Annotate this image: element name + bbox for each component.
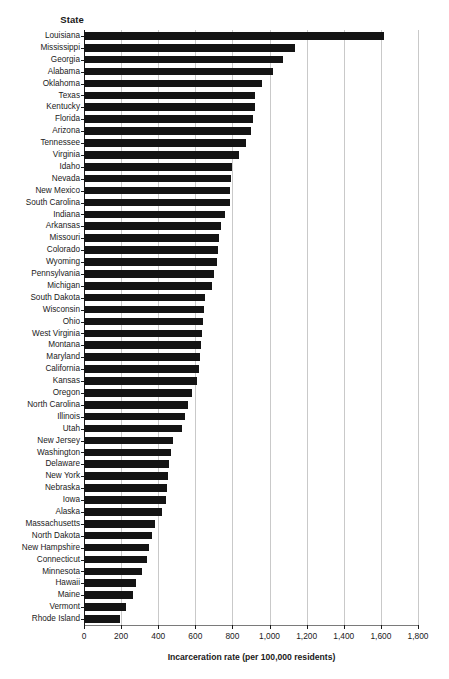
chart-row: New York (0, 470, 418, 482)
category-label-west-virginia: West Virginia (0, 328, 80, 340)
category-label-washington: Washington (0, 447, 80, 459)
chart-row: Hawaii (0, 577, 418, 589)
category-label-connecticut: Connecticut (0, 554, 80, 566)
chart-row: Georgia (0, 54, 418, 66)
bar-montana (84, 341, 201, 349)
bar-texas (84, 92, 255, 100)
category-label-maryland: Maryland (0, 351, 80, 363)
category-label-california: California (0, 363, 80, 375)
category-label-oregon: Oregon (0, 387, 80, 399)
bar-new-jersey (84, 437, 173, 445)
category-label-indiana: Indiana (0, 209, 80, 221)
category-label-south-dakota: South Dakota (0, 292, 80, 304)
chart-row: California (0, 363, 418, 375)
category-label-massachusetts: Massachusetts (0, 518, 80, 530)
bar-nebraska (84, 484, 167, 492)
bar-louisiana (84, 32, 384, 40)
x-tick-label: 400 (138, 631, 178, 641)
category-label-georgia: Georgia (0, 54, 80, 66)
category-label-idaho: Idaho (0, 161, 80, 173)
category-label-iowa: Iowa (0, 494, 80, 506)
bar-california (84, 365, 199, 373)
x-axis-line (84, 625, 419, 626)
x-tick-1200 (307, 625, 308, 629)
category-label-nevada: Nevada (0, 173, 80, 185)
bar-west-virginia (84, 330, 202, 338)
bar-colorado (84, 246, 218, 254)
category-label-north-carolina: North Carolina (0, 399, 80, 411)
bar-virginia (84, 151, 239, 159)
category-label-utah: Utah (0, 423, 80, 435)
chart-row: Wyoming (0, 256, 418, 268)
chart-row: Alabama (0, 66, 418, 78)
category-label-arkansas: Arkansas (0, 220, 80, 232)
chart-row: Arkansas (0, 220, 418, 232)
x-tick-label: 800 (212, 631, 252, 641)
chart-row: Delaware (0, 458, 418, 470)
category-label-florida: Florida (0, 113, 80, 125)
chart-row: Louisiana (0, 30, 418, 42)
category-label-north-dakota: North Dakota (0, 530, 80, 542)
chart-row: South Carolina (0, 197, 418, 209)
chart-row: New Hampshire (0, 542, 418, 554)
x-tick-800 (232, 625, 233, 629)
category-label-wisconsin: Wisconsin (0, 304, 80, 316)
chart-row: Montana (0, 339, 418, 351)
chart-row: Michigan (0, 280, 418, 292)
chart-row: Kentucky (0, 101, 418, 113)
incarceration-rate-bar-chart: State Incarceration rate (per 100,000 re… (0, 0, 449, 679)
category-label-kansas: Kansas (0, 375, 80, 387)
bar-illinois (84, 413, 185, 421)
chart-row: Alaska (0, 506, 418, 518)
bar-michigan (84, 282, 212, 290)
chart-row: Maryland (0, 351, 418, 363)
bar-new-mexico (84, 187, 230, 195)
x-tick-1800 (418, 625, 419, 629)
category-label-texas: Texas (0, 90, 80, 102)
bar-new-york (84, 472, 168, 480)
category-label-missouri: Missouri (0, 232, 80, 244)
bar-north-dakota (84, 532, 152, 540)
chart-row: North Carolina (0, 399, 418, 411)
bar-kentucky (84, 103, 255, 111)
bar-connecticut (84, 556, 147, 564)
x-tick-label: 1,400 (324, 631, 364, 641)
bar-arizona (84, 127, 251, 135)
category-label-michigan: Michigan (0, 280, 80, 292)
chart-row: Wisconsin (0, 304, 418, 316)
chart-row: New Jersey (0, 435, 418, 447)
chart-row: Idaho (0, 161, 418, 173)
chart-row: South Dakota (0, 292, 418, 304)
bar-alaska (84, 508, 162, 516)
category-label-south-carolina: South Carolina (0, 197, 80, 209)
chart-row: Kansas (0, 375, 418, 387)
chart-row: Florida (0, 113, 418, 125)
bar-iowa (84, 496, 166, 504)
chart-row: Connecticut (0, 554, 418, 566)
category-label-tennessee: Tennessee (0, 137, 80, 149)
x-tick-1000 (270, 625, 271, 629)
bar-ohio (84, 318, 203, 326)
x-tick-200 (121, 625, 122, 629)
category-label-delaware: Delaware (0, 458, 80, 470)
chart-row: Vermont (0, 601, 418, 613)
category-label-arizona: Arizona (0, 125, 80, 137)
category-label-new-hampshire: New Hampshire (0, 542, 80, 554)
chart-row: Tennessee (0, 137, 418, 149)
category-label-rhode-island: Rhode Island (0, 613, 80, 625)
category-label-montana: Montana (0, 339, 80, 351)
category-label-new-mexico: New Mexico (0, 185, 80, 197)
chart-row: New Mexico (0, 185, 418, 197)
x-tick-0 (84, 625, 85, 629)
category-label-ohio: Ohio (0, 316, 80, 328)
bar-nevada (84, 175, 231, 183)
x-tick-label: 600 (175, 631, 215, 641)
category-label-new-jersey: New Jersey (0, 435, 80, 447)
chart-row: Utah (0, 423, 418, 435)
x-tick-label: 1,600 (361, 631, 401, 641)
bar-south-carolina (84, 199, 230, 207)
bar-pennsylvania (84, 270, 214, 278)
bar-utah (84, 425, 182, 433)
category-label-new-york: New York (0, 470, 80, 482)
chart-row: Oregon (0, 387, 418, 399)
